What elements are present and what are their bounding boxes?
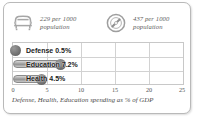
bar-end-marker [10,45,21,56]
x-tick-0: 0 [11,86,14,93]
stat-telephones: 437 per 1000 population [97,7,190,39]
gridline-vertical [149,43,150,84]
bar-label-defense: Defense 0.5% [26,47,71,54]
gridline-vertical [81,43,82,84]
telephone-dial-icon [103,11,129,35]
gridline-vertical [115,43,116,84]
x-tick-5: 5 [45,86,48,93]
stat-cars-label: 229 per 1000 population [40,15,76,30]
bar-row-health: Health 4.5% [13,72,44,86]
x-tick-20: 20 [146,86,152,93]
stat-cars: 229 per 1000 population [4,7,97,39]
x-axis-ticks: 0 5 10 15 20 25 [12,86,184,95]
bar-label-health: Health 4.5% [26,75,65,82]
x-tick-10: 10 [78,86,84,93]
bar-chart-plot-area: Defense 0.5% Education 7.2% Health 4.5% [12,42,184,85]
x-tick-15: 15 [112,86,118,93]
statistics-strip: 229 per 1000 population 437 per 1000 pop… [4,7,190,39]
bar-label-education: Education 7.2% [26,61,78,68]
bar-row-education: Education 7.2% [13,57,63,71]
chart-caption: Defense, Health, Education spending as %… [12,96,188,103]
bar-row-defense: Defense 0.5% [13,43,18,57]
car-icon [10,11,36,35]
stat-telephones-label: 437 per 1000 population [133,15,169,30]
x-tick-25: 25 [179,86,185,93]
infographic-card: 229 per 1000 population 437 per 1000 pop… [3,2,191,114]
bar-defense [13,46,18,54]
